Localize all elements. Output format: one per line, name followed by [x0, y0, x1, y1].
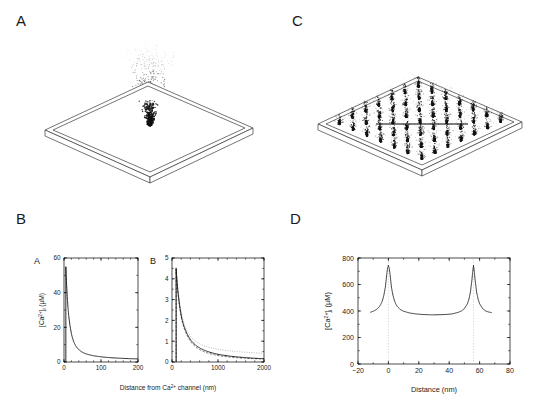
- panel-letter-b: B: [16, 210, 27, 227]
- subplot-a-y-ticks: [64, 258, 138, 362]
- panel-b-subplot-a: A 0204060 0100200 [Ca2+]i (µM): [34, 254, 144, 371]
- tick-label: 40: [53, 289, 61, 296]
- tick-label: 800: [342, 255, 354, 262]
- tick-label: 600: [342, 281, 354, 288]
- subplot-b-curve-dotted: [176, 267, 264, 362]
- subplot-b-letter: B: [150, 256, 156, 266]
- subplot-a-y-tick-labels: 0204060: [53, 254, 61, 365]
- panel-a-svg: [20, 20, 278, 200]
- subplot-a-frame: [64, 258, 138, 362]
- tick-label: 400: [342, 308, 354, 315]
- panel-b-charts: A 0204060 0100200 [Ca2+]i (µM) B: [28, 244, 276, 404]
- subplot-a-y-axis-label: [Ca2+]i (µM): [38, 293, 47, 327]
- panel-d-chart: 0200400600800 −20020406080 [Ca2+]i (µM) …: [300, 244, 550, 404]
- tick-label: 1000: [211, 364, 226, 371]
- tick-label: 0: [62, 364, 66, 371]
- panel-d-svg: 0200400600800 −20020406080 [Ca2+]i (µM) …: [300, 244, 550, 404]
- panel-d-y-ticks: [358, 258, 510, 364]
- tick-label: −20: [352, 367, 364, 374]
- tick-label: 0: [386, 367, 390, 374]
- panel-d-x-tick-labels: −20020406080: [352, 367, 514, 374]
- panel-c-svg: [300, 20, 550, 200]
- panel-c-3d-plot: [300, 20, 550, 200]
- tick-label: 0: [165, 358, 169, 365]
- tick-label: 0: [57, 358, 61, 365]
- tick-label: 5: [165, 254, 169, 261]
- subplot-b-frame: [172, 258, 264, 362]
- subplot-b-x-ticks: [172, 258, 264, 362]
- panel-d-x-ticks: [358, 258, 510, 364]
- panel-b-x-axis-label: Distance from Ca2+ channel (nm): [120, 384, 217, 392]
- panel-d-x-axis-label: Distance (nm): [411, 385, 457, 394]
- tick-label: 60: [476, 367, 484, 374]
- tick-label: 2000: [257, 364, 272, 371]
- tick-label: 1: [165, 338, 169, 345]
- figure-root: A C B: [0, 0, 556, 410]
- panel-letter-d: D: [290, 210, 301, 227]
- panel-b-subplot-b: B 012345 010002000: [150, 254, 272, 371]
- panel-d-y-axis-label: [Ca2+]i (µM): [323, 292, 333, 330]
- subplot-a-x-ticks: [64, 258, 138, 362]
- subplot-b-curve-solid: [176, 268, 264, 362]
- panel-b-svg: A 0204060 0100200 [Ca2+]i (µM) B: [28, 244, 276, 404]
- tick-label: 2: [165, 317, 169, 324]
- panel-d-y-tick-labels: 0200400600800: [342, 255, 354, 368]
- tick-label: 3: [165, 296, 169, 303]
- tick-label: 60: [53, 254, 61, 261]
- panel-a-3d-plot: [20, 20, 278, 200]
- subplot-b-x-tick-labels: 010002000: [170, 364, 271, 371]
- panel-d-frame: [358, 258, 510, 364]
- membrane-slab-a: [45, 82, 253, 183]
- tick-label: 80: [506, 367, 514, 374]
- tick-label: 4: [165, 275, 169, 282]
- tick-label: 200: [342, 334, 354, 341]
- tick-label: 100: [96, 364, 107, 371]
- subplot-a-letter: A: [34, 256, 40, 266]
- subplot-a-x-tick-labels: 0100200: [62, 364, 144, 371]
- tick-label: 0: [170, 364, 174, 371]
- subplot-b-y-tick-labels: 012345: [165, 254, 169, 365]
- subplot-b-y-ticks: [172, 258, 264, 362]
- tick-label: 40: [445, 367, 453, 374]
- subplot-b-curve-dashed: [176, 269, 264, 362]
- subplot-a-curve: [66, 267, 138, 362]
- tick-label: 200: [133, 364, 144, 371]
- tick-label: 20: [415, 367, 423, 374]
- tick-label: 20: [53, 324, 61, 331]
